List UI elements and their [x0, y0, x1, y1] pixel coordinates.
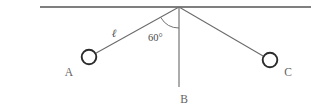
pendulum-bob-a	[82, 50, 97, 65]
string-right-segment	[179, 7, 264, 56]
pendulum-diagram-figure: A C B 60° ℓ	[0, 0, 321, 109]
label-point-a: A	[65, 66, 74, 78]
string-left-segment	[95, 7, 179, 54]
label-angle-sixty: 60°	[148, 32, 163, 43]
pendulum-bob-c	[263, 53, 278, 68]
angle-arc	[161, 18, 179, 29]
label-point-b: B	[180, 93, 188, 105]
label-point-c: C	[284, 66, 292, 78]
pendulum-diagram-canvas: A C B 60° ℓ	[0, 0, 321, 109]
label-string-length: ℓ	[112, 27, 117, 39]
